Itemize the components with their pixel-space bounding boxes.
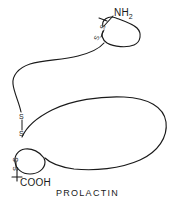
sulfur-label-3-upper: S	[12, 157, 19, 162]
c-terminal-loop-path	[15, 149, 45, 174]
sulfur-label-1-lower: S	[92, 34, 100, 41]
sulfur-label-2-upper: S	[19, 113, 24, 120]
prolactin-figure: S S S S S S NH2 COOH PROLACTIN	[0, 0, 175, 210]
sulfur-label-3-lower: S	[12, 166, 19, 171]
c-terminus-label: COOH	[20, 177, 51, 188]
nh2-subscript: 2	[129, 13, 133, 20]
nh2-text: NH	[114, 7, 129, 18]
figure-title: PROLACTIN	[0, 188, 175, 198]
n-terminus-label: NH2	[114, 7, 133, 20]
sulfur-label-2-lower: S	[19, 130, 24, 137]
main-chain-path	[13, 43, 104, 112]
